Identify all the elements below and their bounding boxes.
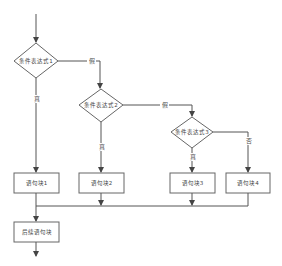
block-after-label: 后续语句块 — [22, 228, 52, 236]
edge-cond3-false — [213, 132, 248, 172]
decision-cond3-label: 条件表达式3 — [175, 128, 209, 136]
block-1[interactable]: 语句块1 — [14, 173, 59, 193]
decision-cond3[interactable]: 条件表达式3 — [171, 117, 213, 148]
block-4[interactable]: 语句块4 — [226, 173, 270, 193]
edge-label-c1-true: 真 — [34, 95, 40, 103]
decision-cond2[interactable]: 条件表达式2 — [79, 89, 123, 122]
decision-cond1[interactable]: 条件表达式1 — [14, 43, 58, 78]
decision-cond2-label: 条件表达式2 — [84, 101, 118, 109]
edge-label-c2-true: 真 — [99, 143, 105, 151]
block-3-label: 语句块3 — [182, 179, 204, 187]
block-4-label: 语句块4 — [237, 179, 259, 187]
block-after[interactable]: 后续语句块 — [14, 222, 59, 242]
edge-cond2-false — [123, 105, 192, 116]
edge-cond1-false — [58, 61, 100, 88]
merge-line — [36, 193, 248, 206]
edge-label-c3-true: 真 — [190, 153, 196, 161]
block-2[interactable]: 语句块2 — [79, 173, 124, 193]
flowchart-canvas: 条件表达式1 假 真 条件表达式2 假 真 条件表达式3 否 真 语句块1 语句… — [0, 0, 282, 266]
block-3[interactable]: 语句块3 — [170, 173, 215, 193]
edge-label-c3-false: 否 — [246, 137, 252, 145]
edge-label-c1-false: 假 — [89, 57, 95, 65]
block-1-label: 语句块1 — [26, 179, 48, 187]
block-2-label: 语句块2 — [91, 179, 113, 187]
decision-cond1-label: 条件表达式1 — [19, 57, 53, 65]
edge-label-c2-false: 假 — [162, 101, 168, 109]
